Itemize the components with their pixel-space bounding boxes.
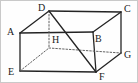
vertex-label-d: D [38,3,45,13]
hidden-edge-eh [20,48,49,71]
edge-fg [96,53,121,72]
vertex-label-g: G [124,50,131,60]
edge-ef [20,71,96,72]
edge-ad [20,11,49,33]
vertex-label-a: A [7,27,14,37]
vertex-label-b: B [95,34,102,44]
solid-edges-group [20,11,121,72]
edge-cb [93,12,121,32]
vertex-label-c: C [124,4,131,14]
vertex-label-h: H [52,35,59,45]
edge-ba [20,32,93,33]
vertex-label-f: F [99,72,105,82]
geometry-figure: ABCDEFGH [0,0,138,83]
cuboid-drawing [1,1,138,83]
edge-dc [49,11,121,12]
hidden-edge-hg [49,48,121,53]
vertex-label-e: E [8,67,14,77]
hidden-edges-group [20,11,121,71]
